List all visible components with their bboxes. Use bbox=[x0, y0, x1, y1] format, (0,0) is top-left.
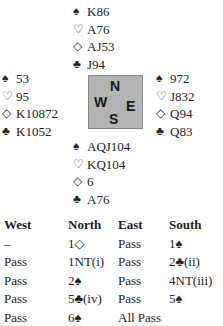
header-south: South bbox=[169, 216, 219, 235]
header-east: East bbox=[118, 216, 169, 235]
compass-north: N bbox=[110, 78, 120, 94]
club-icon: ♣ bbox=[73, 56, 87, 74]
bid: 6♠ bbox=[68, 309, 118, 326]
east-hand: ♠972 ♡J832 ◇Q94 ♣Q83 bbox=[156, 70, 195, 140]
bid: Pass bbox=[118, 253, 169, 272]
bid: 2♣(ii) bbox=[169, 253, 219, 272]
spade-icon: ♠ bbox=[73, 138, 87, 156]
bid: 5♣(iv) bbox=[68, 290, 118, 309]
north-hearts: A76 bbox=[87, 21, 109, 39]
bid bbox=[169, 309, 219, 326]
diamond-icon: ◇ bbox=[73, 38, 87, 56]
bid: Pass bbox=[118, 272, 169, 291]
compass-box: N W E S bbox=[88, 75, 143, 129]
compass-east: E bbox=[126, 98, 135, 114]
west-hand: ♠53 ♡95 ◇K10872 ♣K1052 bbox=[2, 70, 58, 140]
bid: Pass bbox=[4, 253, 68, 272]
bidding-table: West North East South – 1◇ Pass 1♠ Pass … bbox=[4, 216, 219, 326]
club-icon: ♣ bbox=[156, 123, 170, 141]
bidding-row: Pass 6♠ All Pass bbox=[4, 309, 219, 326]
spade-icon: ♠ bbox=[2, 70, 16, 88]
bidding-row: – 1◇ Pass 1♠ bbox=[4, 235, 219, 254]
header-north: North bbox=[68, 216, 118, 235]
club-icon: ♣ bbox=[2, 123, 16, 141]
east-hearts: J832 bbox=[170, 88, 195, 106]
south-hearts: KQ104 bbox=[87, 156, 125, 174]
bid: 5♠ bbox=[169, 290, 219, 309]
bid: Pass bbox=[118, 290, 169, 309]
east-clubs: Q83 bbox=[170, 123, 192, 141]
compass-south: S bbox=[109, 111, 118, 127]
north-spades: K86 bbox=[87, 3, 109, 21]
header-west: West bbox=[4, 216, 68, 235]
west-spades: 53 bbox=[16, 70, 29, 88]
bidding-header: West North East South bbox=[4, 216, 219, 235]
bid: 1◇ bbox=[68, 235, 118, 254]
spade-icon: ♠ bbox=[156, 70, 170, 88]
bidding-row: Pass 1NT(i) Pass 2♣(ii) bbox=[4, 253, 219, 272]
heart-icon: ♡ bbox=[73, 156, 87, 174]
bid: 4NT(iii) bbox=[169, 272, 219, 291]
bid: Pass bbox=[118, 235, 169, 254]
bid: 1♠ bbox=[169, 235, 219, 254]
east-spades: 972 bbox=[170, 70, 190, 88]
diamond-icon: ◇ bbox=[2, 105, 16, 123]
south-hand: ♠AQJ104 ♡KQ104 ◇6 ♣A76 bbox=[73, 138, 130, 208]
spade-icon: ♠ bbox=[73, 3, 87, 21]
bid: 2♠ bbox=[68, 272, 118, 291]
bid: Pass bbox=[4, 272, 68, 291]
east-diamonds: Q94 bbox=[170, 105, 192, 123]
club-icon: ♣ bbox=[73, 191, 87, 209]
north-clubs: J94 bbox=[87, 56, 105, 74]
diamond-icon: ◇ bbox=[73, 173, 87, 191]
south-spades: AQJ104 bbox=[87, 138, 130, 156]
bidding-row: Pass 5♣(iv) Pass 5♠ bbox=[4, 290, 219, 309]
north-diamonds: AJ53 bbox=[87, 38, 114, 56]
bid: 1NT(i) bbox=[68, 253, 118, 272]
west-diamonds: K10872 bbox=[16, 105, 58, 123]
heart-icon: ♡ bbox=[156, 88, 170, 106]
bid: – bbox=[4, 235, 68, 254]
west-hearts: 95 bbox=[16, 88, 29, 106]
bid: All Pass bbox=[118, 309, 169, 326]
bid: Pass bbox=[4, 309, 68, 326]
west-clubs: K1052 bbox=[16, 123, 51, 141]
south-diamonds: 6 bbox=[87, 173, 94, 191]
north-hand: ♠K86 ♡A76 ◇AJ53 ♣J94 bbox=[73, 3, 114, 73]
diamond-icon: ◇ bbox=[156, 105, 170, 123]
bidding-row: Pass 2♠ Pass 4NT(iii) bbox=[4, 272, 219, 291]
heart-icon: ♡ bbox=[73, 21, 87, 39]
heart-icon: ♡ bbox=[2, 88, 16, 106]
south-clubs: A76 bbox=[87, 191, 109, 209]
bid: Pass bbox=[4, 290, 68, 309]
compass-west: W bbox=[94, 94, 107, 110]
